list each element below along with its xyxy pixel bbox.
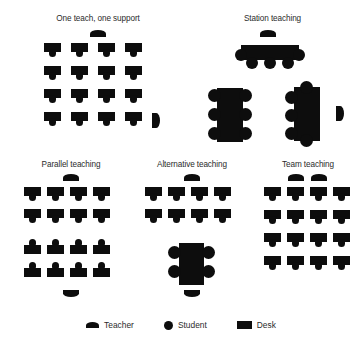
student-desk-unit bbox=[47, 209, 64, 226]
student-desk-unit bbox=[333, 233, 350, 250]
student-desk-unit bbox=[70, 262, 87, 279]
student-desk-unit bbox=[93, 209, 110, 226]
student-circle-icon bbox=[173, 193, 181, 201]
student-desk-unit bbox=[264, 233, 281, 250]
student-circle-icon bbox=[285, 91, 298, 104]
teacher-semicircle-icon bbox=[184, 290, 200, 297]
student-circle-icon bbox=[98, 193, 106, 201]
panel-stage bbox=[190, 28, 355, 144]
panel-station-teaching: Station teaching bbox=[190, 14, 355, 144]
group-table-top bbox=[235, 45, 305, 73]
student-circle-icon bbox=[103, 95, 111, 103]
student-circle-icon bbox=[315, 193, 323, 201]
student-circle-icon bbox=[164, 321, 173, 330]
student-circle-icon bbox=[239, 127, 252, 140]
student-desk-unit bbox=[333, 256, 350, 273]
legend-item-student: Student bbox=[164, 320, 207, 330]
student-circle-icon bbox=[76, 72, 84, 80]
teacher-semicircle-icon bbox=[86, 322, 99, 329]
student-desk-unit bbox=[145, 187, 162, 204]
teacher-semicircle-icon bbox=[90, 30, 106, 37]
student-desk-unit bbox=[125, 112, 142, 129]
panel-title: Parallel teaching bbox=[6, 160, 136, 170]
student-circle-icon bbox=[130, 118, 138, 126]
desk-rectangle-icon bbox=[179, 243, 204, 285]
student-desk-unit bbox=[214, 209, 231, 226]
teacher-semicircle-icon bbox=[288, 174, 304, 181]
student-circle-icon bbox=[292, 239, 300, 247]
panel-title: Alternative teaching bbox=[132, 160, 252, 170]
student-circle-icon bbox=[130, 72, 138, 80]
student-circle-icon bbox=[219, 215, 227, 223]
panel-one-teach-one-support: One teach, one support bbox=[18, 14, 178, 144]
legend: Teacher Student Desk bbox=[0, 320, 362, 330]
student-circle-icon bbox=[300, 134, 313, 147]
student-circle-icon bbox=[150, 215, 158, 223]
student-circle-icon bbox=[98, 215, 106, 223]
student-circle-icon bbox=[196, 193, 204, 201]
student-desk-unit bbox=[191, 209, 208, 226]
student-circle-icon bbox=[168, 246, 181, 259]
student-circle-icon bbox=[338, 216, 346, 224]
teacher-semicircle-icon bbox=[311, 174, 327, 181]
desk-rectangle-icon bbox=[47, 268, 64, 277]
student-circle-icon bbox=[29, 193, 37, 201]
student-circle-icon bbox=[49, 118, 57, 126]
student-desk-unit bbox=[287, 256, 304, 273]
panel-stage bbox=[6, 173, 136, 308]
desk-rectangle-icon bbox=[47, 245, 64, 254]
student-desk-unit bbox=[310, 187, 327, 204]
desk-rectangle-icon bbox=[237, 321, 252, 329]
student-desk-unit bbox=[70, 239, 87, 256]
student-circle-icon bbox=[130, 49, 138, 57]
teacher-semicircle-icon bbox=[63, 290, 79, 297]
desk-rectangle-icon bbox=[24, 268, 41, 277]
student-circle-icon bbox=[103, 72, 111, 80]
desk-rectangle-icon bbox=[93, 268, 110, 277]
panel-stage bbox=[256, 173, 360, 308]
student-circle-icon bbox=[49, 95, 57, 103]
student-circle-icon bbox=[150, 193, 158, 201]
student-desk-unit bbox=[310, 210, 327, 227]
student-circle-icon bbox=[338, 193, 346, 201]
student-circle-icon bbox=[293, 49, 305, 61]
panel-title: Station teaching bbox=[190, 14, 355, 24]
student-circle-icon bbox=[235, 49, 247, 61]
student-circle-icon bbox=[208, 108, 221, 121]
student-desk-unit bbox=[44, 112, 61, 129]
student-circle-icon bbox=[269, 216, 277, 224]
student-circle-icon bbox=[202, 265, 215, 278]
panel-team-teaching: Team teaching bbox=[256, 160, 360, 308]
teacher-semicircle-icon bbox=[152, 113, 160, 128]
student-circle-icon bbox=[196, 215, 204, 223]
student-desk-unit bbox=[93, 239, 110, 256]
co-teaching-models-diagram: One teach, one support Station teaching bbox=[0, 0, 362, 351]
student-desk-unit bbox=[168, 187, 185, 204]
student-circle-icon bbox=[315, 239, 323, 247]
student-circle-icon bbox=[202, 246, 215, 259]
student-desk-unit bbox=[125, 43, 142, 60]
student-desk-unit bbox=[287, 187, 304, 204]
student-circle-icon bbox=[49, 72, 57, 80]
student-circle-icon bbox=[76, 118, 84, 126]
student-desk-unit bbox=[264, 210, 281, 227]
student-desk-unit bbox=[264, 256, 281, 273]
student-desk-unit bbox=[168, 209, 185, 226]
student-circle-icon bbox=[173, 215, 181, 223]
teacher-semicircle-icon bbox=[336, 106, 344, 121]
student-desk-unit bbox=[333, 187, 350, 204]
student-desk-unit bbox=[98, 66, 115, 83]
student-desk-unit bbox=[47, 187, 64, 204]
student-circle-icon bbox=[300, 81, 313, 94]
student-desk-unit bbox=[70, 187, 87, 204]
student-circle-icon bbox=[29, 215, 37, 223]
student-desk-unit bbox=[125, 89, 142, 106]
student-circle-icon bbox=[282, 57, 294, 69]
student-desk-unit bbox=[125, 66, 142, 83]
student-circle-icon bbox=[315, 216, 323, 224]
student-circle-icon bbox=[168, 265, 181, 278]
student-desk-unit bbox=[47, 262, 64, 279]
legend-item-teacher: Teacher bbox=[86, 320, 134, 330]
desk-rectangle-icon bbox=[70, 245, 87, 254]
teacher-semicircle-icon bbox=[184, 174, 200, 181]
